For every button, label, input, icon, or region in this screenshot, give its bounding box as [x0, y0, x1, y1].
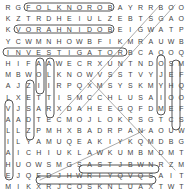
letter-cell[interactable]: O — [74, 2, 84, 13]
letter-cell[interactable]: B — [85, 36, 95, 47]
letter-cell[interactable]: Z — [23, 125, 33, 136]
letter-cell[interactable]: I — [3, 136, 13, 147]
letter-cell[interactable]: H — [54, 13, 64, 24]
letter-cell[interactable]: R — [135, 36, 145, 47]
letter-cell[interactable]: E — [44, 114, 54, 125]
letter-cell[interactable]: Z — [13, 13, 23, 24]
letter-cell[interactable]: K — [95, 181, 105, 190]
letter-cell[interactable]: R — [85, 170, 95, 181]
letter-cell[interactable]: T — [176, 181, 186, 190]
letter-cell[interactable]: S — [125, 80, 135, 91]
letter-cell[interactable]: Y — [156, 80, 166, 91]
letter-cell[interactable]: I — [44, 147, 54, 158]
letter-cell[interactable]: H — [105, 92, 115, 103]
letter-cell[interactable]: E — [166, 103, 176, 114]
letter-cell[interactable]: O — [23, 24, 33, 35]
letter-cell[interactable]: K — [135, 80, 145, 91]
letter-cell[interactable]: G — [156, 13, 166, 24]
letter-cell[interactable]: N — [115, 58, 125, 69]
letter-cell[interactable]: J — [13, 103, 23, 114]
letter-cell[interactable]: S — [85, 181, 95, 190]
letter-cell[interactable]: A — [34, 136, 44, 147]
letter-cell[interactable]: E — [115, 24, 125, 35]
letter-cell[interactable]: P — [34, 125, 44, 136]
letter-cell[interactable]: U — [85, 13, 95, 24]
letter-cell[interactable]: Y — [115, 80, 125, 91]
letter-cell[interactable]: A — [3, 147, 13, 158]
letter-cell[interactable]: K — [23, 181, 33, 190]
letter-cell[interactable]: K — [3, 13, 13, 24]
letter-cell[interactable]: O — [176, 92, 186, 103]
letter-cell[interactable]: S — [146, 170, 156, 181]
letter-cell[interactable]: Y — [125, 2, 135, 13]
letter-cell[interactable]: K — [54, 69, 64, 80]
letter-cell[interactable]: A — [85, 159, 95, 170]
letter-cell[interactable]: L — [13, 125, 23, 136]
letter-cell[interactable]: F — [176, 103, 186, 114]
letter-cell[interactable]: M — [176, 159, 186, 170]
letter-cell[interactable]: A — [44, 24, 54, 35]
letter-cell[interactable]: N — [64, 2, 74, 13]
letter-cell[interactable]: S — [74, 159, 84, 170]
letter-cell[interactable]: K — [64, 147, 74, 158]
letter-cell[interactable]: C — [23, 147, 33, 158]
letter-cell[interactable]: Y — [3, 36, 13, 47]
letter-cell[interactable]: J — [13, 170, 23, 181]
letter-cell[interactable]: P — [176, 24, 186, 35]
letter-cell[interactable]: S — [23, 103, 33, 114]
letter-cell[interactable]: M — [125, 36, 135, 47]
letter-cell[interactable]: N — [64, 69, 74, 80]
letter-cell[interactable]: X — [13, 92, 23, 103]
letter-cell[interactable]: O — [105, 47, 115, 58]
letter-cell[interactable]: G — [146, 114, 156, 125]
letter-cell[interactable]: S — [115, 69, 125, 80]
letter-cell[interactable]: W — [23, 36, 33, 47]
letter-cell[interactable]: J — [156, 69, 166, 80]
letter-cell[interactable]: C — [85, 92, 95, 103]
letter-cell[interactable]: S — [64, 92, 74, 103]
letter-cell[interactable]: C — [54, 114, 64, 125]
letter-cell[interactable]: O — [34, 69, 44, 80]
letter-cell[interactable]: Y — [146, 69, 156, 80]
letter-cell[interactable]: E — [64, 58, 74, 69]
letter-cell[interactable]: S — [44, 159, 54, 170]
letter-cell[interactable]: W — [74, 36, 84, 47]
letter-cell[interactable]: L — [115, 92, 125, 103]
letter-cell[interactable]: D — [23, 114, 33, 125]
letter-cell[interactable]: A — [146, 125, 156, 136]
letter-cell[interactable]: V — [125, 170, 135, 181]
letter-cell[interactable]: Q — [74, 80, 84, 91]
letter-cell[interactable]: J — [115, 159, 125, 170]
letter-cell[interactable]: B — [125, 13, 135, 24]
letter-cell[interactable]: J — [54, 170, 64, 181]
letter-cell[interactable]: Q — [176, 80, 186, 91]
letter-cell[interactable]: F — [23, 2, 33, 13]
letter-cell[interactable]: O — [156, 125, 166, 136]
letter-cell[interactable]: I — [95, 170, 105, 181]
letter-cell[interactable]: O — [95, 2, 105, 13]
letter-cell[interactable]: H — [85, 103, 95, 114]
letter-cell[interactable]: B — [166, 136, 176, 147]
letter-cell[interactable]: D — [156, 147, 166, 158]
letter-cell[interactable]: E — [64, 13, 74, 24]
letter-cell[interactable]: M — [156, 103, 166, 114]
letter-cell[interactable]: O — [95, 24, 105, 35]
letter-cell[interactable]: R — [135, 2, 145, 13]
letter-cell[interactable]: U — [166, 125, 176, 136]
letter-cell[interactable]: Q — [135, 170, 145, 181]
letter-cell[interactable]: L — [13, 136, 23, 147]
letter-cell[interactable]: E — [105, 103, 115, 114]
letter-cell[interactable]: I — [44, 80, 54, 91]
letter-cell[interactable]: S — [95, 159, 105, 170]
letter-cell[interactable]: D — [146, 58, 156, 69]
letter-cell[interactable]: T — [166, 24, 176, 35]
letter-cell[interactable]: A — [146, 47, 156, 58]
letter-cell[interactable]: R — [146, 2, 156, 13]
letter-cell[interactable]: T — [105, 159, 115, 170]
letter-cell[interactable]: T — [34, 114, 44, 125]
letter-cell[interactable]: G — [64, 159, 74, 170]
letter-cell[interactable]: A — [146, 92, 156, 103]
letter-cell[interactable]: B — [13, 69, 23, 80]
letter-cell[interactable]: T — [176, 170, 186, 181]
letter-cell[interactable]: H — [3, 58, 13, 69]
